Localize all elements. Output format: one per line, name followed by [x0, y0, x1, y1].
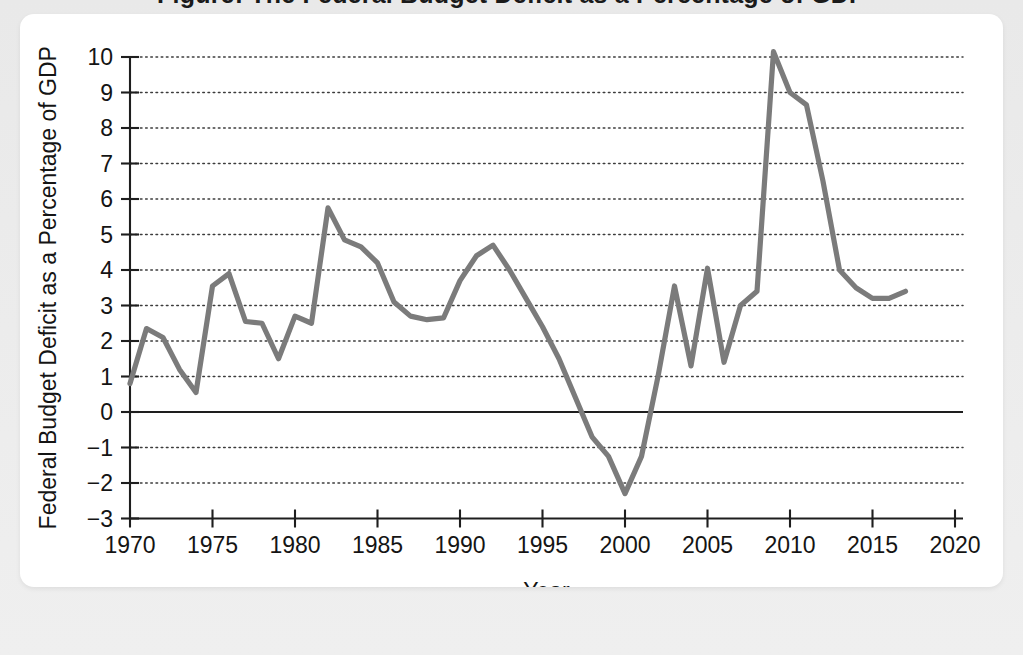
y-tick-label-10: 10	[87, 44, 113, 70]
y-tick-label-8: 8	[100, 115, 113, 141]
chart-card: −3−2−10123456789101970197519801985199019…	[20, 14, 1003, 587]
x-tick-label-2005: 2005	[682, 532, 733, 558]
y-tick-label-7: 7	[100, 151, 113, 177]
y-tick-label-0: 0	[100, 399, 113, 425]
y-tick-label-6: 6	[100, 186, 113, 212]
deficit-series-line	[130, 52, 906, 494]
line-chart: −3−2−10123456789101970197519801985199019…	[20, 14, 1003, 587]
x-tick-label-1970: 1970	[104, 532, 155, 558]
x-tick-label-1980: 1980	[269, 532, 320, 558]
x-tick-label-2010: 2010	[764, 532, 815, 558]
y-tick-label-2: 2	[100, 328, 113, 354]
y-tick-label--3: −3	[87, 506, 113, 532]
x-tick-label-1975: 1975	[187, 532, 238, 558]
y-axis-title: Federal Budget Deficit as a Percentage o…	[35, 46, 61, 529]
cropped-figure-title: Figure: The Federal Budget Deficit as a …	[0, 0, 1023, 14]
x-tick-label-1990: 1990	[434, 532, 485, 558]
x-axis-title: Year	[523, 578, 570, 588]
y-tick-label--2: −2	[87, 470, 113, 496]
x-tick-label-2015: 2015	[847, 532, 898, 558]
y-tick-label-4: 4	[100, 257, 113, 283]
y-tick-label--1: −1	[87, 435, 113, 461]
page-background: Figure: The Federal Budget Deficit as a …	[0, 0, 1023, 655]
chart-plot-area: −3−2−10123456789101970197519801985199019…	[20, 14, 1003, 587]
y-tick-label-1: 1	[100, 364, 113, 390]
x-tick-label-2020: 2020	[929, 532, 980, 558]
y-tick-label-9: 9	[100, 80, 113, 106]
y-tick-label-3: 3	[100, 293, 113, 319]
x-tick-label-2000: 2000	[599, 532, 650, 558]
figure-title-text: Figure: The Federal Budget Deficit as a …	[0, 0, 1023, 9]
x-tick-label-1995: 1995	[517, 532, 568, 558]
y-tick-label-5: 5	[100, 222, 113, 248]
x-tick-label-1985: 1985	[352, 532, 403, 558]
